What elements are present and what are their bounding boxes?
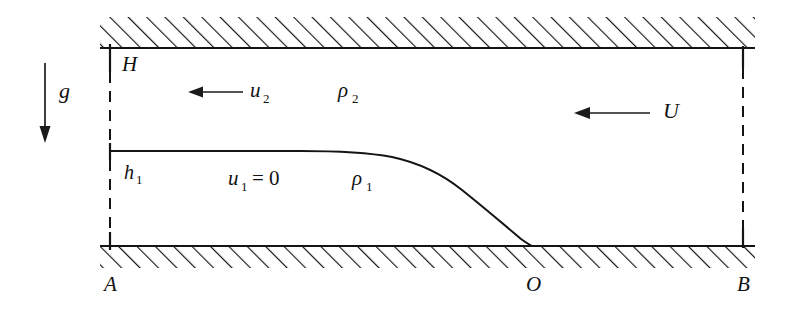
lower-density-sub: 1 — [366, 179, 373, 194]
gravity-arrow — [40, 63, 51, 143]
layer-depth-main: h — [124, 161, 134, 183]
gravity-current-diagram: g H h 1 u 2 ρ 2 u 1 = 0 ρ 1 U A O B — [0, 0, 790, 314]
bottom-wall-hatching — [100, 246, 755, 268]
point-label-a: A — [102, 272, 117, 296]
gravity-label: g — [59, 78, 70, 103]
upper-density-main: ρ — [337, 78, 348, 102]
upper-flow-arrow — [188, 87, 243, 98]
upper-flow-arrow-head — [188, 87, 203, 98]
top-wall — [100, 17, 755, 48]
upper-density-sub: 2 — [352, 91, 359, 106]
layer-depth-label: h 1 — [124, 161, 143, 187]
layer-interface-curve — [110, 151, 533, 246]
lower-velocity-label: u 1 = 0 — [228, 166, 280, 194]
top-wall-hatching — [100, 17, 755, 48]
layer-depth-sub: 1 — [136, 172, 143, 187]
lower-density-label: ρ 1 — [351, 166, 373, 194]
bottom-wall — [100, 246, 755, 268]
front-speed-arrow — [574, 107, 650, 119]
front-speed-arrow-head — [574, 107, 590, 119]
lower-velocity-equals: = 0 — [252, 166, 280, 190]
figure-canvas: g H h 1 u 2 ρ 2 u 1 = 0 ρ 1 U A O B — [0, 0, 790, 314]
upper-density-label: ρ 2 — [337, 78, 359, 106]
front-speed-label: U — [663, 98, 681, 123]
channel-height-label: H — [121, 52, 139, 76]
lower-density-main: ρ — [351, 166, 362, 190]
lower-velocity-main: u — [228, 166, 239, 190]
point-label-o: O — [526, 272, 541, 296]
upper-velocity-label: u 2 — [250, 78, 270, 106]
upper-velocity-main: u — [250, 78, 261, 102]
lower-velocity-sub: 1 — [241, 179, 248, 194]
gravity-arrow-head — [40, 126, 51, 143]
upper-velocity-sub: 2 — [263, 91, 270, 106]
point-label-b: B — [737, 272, 750, 296]
